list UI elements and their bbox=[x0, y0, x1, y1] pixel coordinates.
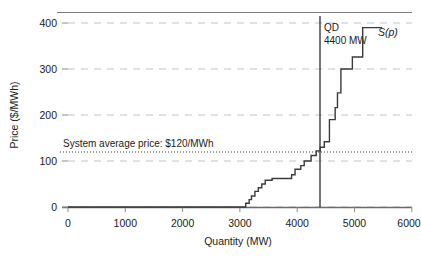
y-tick-label-0: 0 bbox=[51, 201, 57, 213]
system-average-price-label: System average price: $120/MWh bbox=[63, 138, 214, 149]
x-tick-label-0: 0 bbox=[65, 217, 71, 229]
y-tick-label-100: 100 bbox=[39, 155, 57, 167]
y-axis-title: Price ($/MWh) bbox=[8, 81, 20, 148]
x-tick-label-1000: 1000 bbox=[114, 217, 138, 229]
supply-curve-chart: 400 300 200 100 0 0 1000 2000 3000 4000 … bbox=[0, 0, 421, 269]
y-tick-label-300: 300 bbox=[39, 63, 57, 75]
x-tick-label-6000: 6000 bbox=[397, 217, 421, 229]
demand-label-value: 4400 MW bbox=[324, 35, 367, 46]
chart-svg: 400 300 200 100 0 0 1000 2000 3000 4000 … bbox=[0, 0, 421, 269]
y-tick-label-400: 400 bbox=[39, 17, 57, 29]
x-tick-label-4000: 4000 bbox=[286, 217, 310, 229]
demand-label-name: QD bbox=[324, 22, 339, 33]
x-tick-label-5000: 5000 bbox=[343, 217, 367, 229]
x-tick-label-3000: 3000 bbox=[228, 217, 252, 229]
x-axis-title: Quantity (MW) bbox=[204, 235, 272, 247]
y-tick-label-200: 200 bbox=[39, 109, 57, 121]
supply-curve-label: S(p) bbox=[378, 26, 398, 38]
x-tick-label-2000: 2000 bbox=[171, 217, 195, 229]
